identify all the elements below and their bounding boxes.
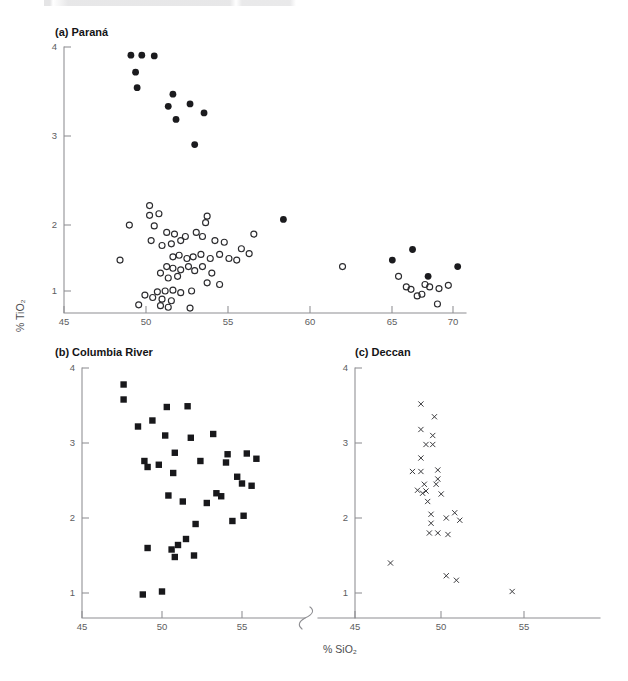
data-point xyxy=(223,459,229,465)
data-point xyxy=(170,287,176,293)
data-point xyxy=(207,255,213,261)
data-point xyxy=(157,303,163,309)
panel-c-xtick-50: 50 xyxy=(436,621,447,632)
data-point xyxy=(193,229,199,235)
panel-b-ytick-2: 2 xyxy=(70,512,75,523)
data-point xyxy=(457,518,462,523)
series-group xyxy=(120,381,259,597)
panel-a-xtick-50: 50 xyxy=(141,316,152,327)
data-point xyxy=(418,469,423,474)
data-point xyxy=(126,222,132,228)
data-point xyxy=(136,302,142,308)
data-point xyxy=(187,305,193,311)
panel-a-xtick-65: 65 xyxy=(387,316,398,327)
data-point xyxy=(162,432,168,438)
panel-a-axes xyxy=(64,47,466,313)
data-point xyxy=(246,251,252,257)
data-point xyxy=(212,238,218,244)
y-axis-title: % TiO₂ xyxy=(14,299,26,332)
data-point xyxy=(210,431,216,437)
data-point xyxy=(162,288,168,294)
data-point xyxy=(422,482,427,487)
data-point xyxy=(452,510,457,515)
page-header-remnant xyxy=(44,0,344,6)
data-point xyxy=(435,467,440,472)
data-point xyxy=(151,53,158,60)
panel-c-ytick-4: 4 xyxy=(343,362,348,373)
panel-b-data-points xyxy=(120,381,259,597)
data-point xyxy=(425,499,430,504)
data-point xyxy=(159,242,165,248)
panel-c-ytick-2: 2 xyxy=(343,512,348,523)
panel-a-ytick-4: 4 xyxy=(52,41,57,52)
data-point xyxy=(150,295,156,301)
data-point xyxy=(434,482,439,487)
data-point xyxy=(445,532,450,537)
data-point xyxy=(156,211,162,217)
panel-c-axes xyxy=(355,368,600,618)
data-point xyxy=(253,456,259,462)
data-point xyxy=(217,251,223,257)
data-point xyxy=(170,265,176,271)
data-point xyxy=(141,458,147,464)
data-point xyxy=(170,470,176,476)
data-point xyxy=(209,270,215,276)
data-point xyxy=(168,298,174,304)
panel-a-xtick-60: 60 xyxy=(305,316,316,327)
data-point xyxy=(184,255,190,261)
data-point xyxy=(170,254,176,260)
panel-a-x-ticks: 45 50 55 60 65 70 xyxy=(59,306,459,327)
data-point xyxy=(191,141,198,148)
data-point xyxy=(120,396,126,402)
panel-b-x-ticks: 45 50 55 xyxy=(77,611,248,632)
data-point xyxy=(128,52,135,59)
figure-root: (a) Paraná 4 3 2 1 4 xyxy=(0,0,628,681)
data-point xyxy=(234,474,240,480)
panel-a-ytick-3: 3 xyxy=(52,130,57,141)
data-point xyxy=(244,450,250,456)
data-point xyxy=(396,273,402,279)
data-point xyxy=(120,381,126,387)
data-point xyxy=(164,229,170,235)
panel-b-y-ticks: 4 3 2 1 xyxy=(70,362,89,598)
data-point xyxy=(197,458,203,464)
data-point xyxy=(149,417,155,423)
panel-a-xtick-55: 55 xyxy=(223,316,234,327)
data-point xyxy=(218,493,224,499)
data-point xyxy=(140,591,146,597)
data-point xyxy=(423,442,428,447)
data-point xyxy=(172,450,178,456)
data-point xyxy=(144,464,150,470)
data-point xyxy=(199,234,205,240)
data-point xyxy=(204,280,210,286)
data-point xyxy=(191,552,197,558)
series-group xyxy=(128,52,462,280)
data-point xyxy=(201,109,208,116)
data-point xyxy=(180,498,186,504)
panel-a-y-ticks: 4 3 2 1 xyxy=(52,41,71,296)
x-axis-title: % SiO₂ xyxy=(323,643,357,655)
data-point xyxy=(199,264,205,270)
data-point xyxy=(178,290,184,296)
data-point xyxy=(135,423,141,429)
data-point xyxy=(418,455,423,460)
data-point xyxy=(251,231,257,237)
data-point xyxy=(165,103,172,110)
data-point xyxy=(430,433,435,438)
panel-c-data-points xyxy=(388,401,515,594)
data-point xyxy=(434,301,440,307)
data-point xyxy=(410,469,415,474)
data-point xyxy=(165,275,171,281)
data-point xyxy=(187,101,194,108)
panel-a-ytick-2: 2 xyxy=(52,219,57,230)
data-point xyxy=(418,427,423,432)
data-point xyxy=(444,515,449,520)
data-point xyxy=(184,403,190,409)
data-point xyxy=(198,251,204,257)
panel-b-xtick-50: 50 xyxy=(157,621,168,632)
data-point xyxy=(178,238,184,244)
data-point xyxy=(144,545,150,551)
data-point xyxy=(176,252,182,258)
data-point xyxy=(217,281,223,287)
data-point xyxy=(418,401,423,406)
